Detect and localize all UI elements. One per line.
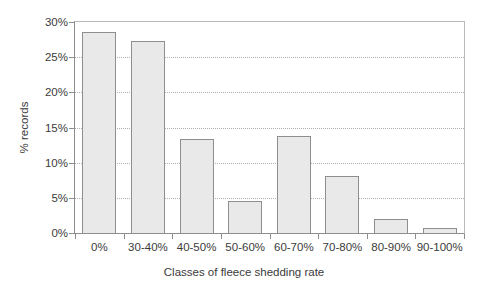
y-axis-tick-label: 15% — [8, 122, 68, 134]
x-axis-tick-mark — [124, 234, 125, 239]
y-axis-tick-mark — [69, 22, 74, 23]
y-axis-tick-label: 5% — [8, 192, 68, 204]
bar — [325, 176, 359, 234]
x-axis-tick-label: 60-70% — [274, 241, 314, 253]
y-axis-tick-label: 25% — [8, 51, 68, 63]
bar — [228, 201, 262, 234]
y-axis-tick-label: 30% — [8, 16, 68, 28]
x-axis-title: Classes of fleece shedding rate — [0, 266, 488, 278]
x-axis-tick-label: 50-60% — [225, 241, 265, 253]
bars-layer — [75, 22, 464, 234]
x-axis-tick-label: 90-100% — [417, 241, 463, 253]
bar — [423, 228, 457, 234]
x-axis-tick-mark — [367, 234, 368, 239]
y-axis-tick-mark — [69, 233, 74, 234]
y-axis-tick-mark — [69, 198, 74, 199]
bar — [131, 41, 165, 234]
y-axis-tick-mark — [69, 57, 74, 58]
x-axis-tick-mark — [318, 234, 319, 239]
bar — [277, 136, 311, 234]
x-axis-tick-mark — [464, 234, 465, 239]
x-axis-tick-label: 30-40% — [128, 241, 168, 253]
x-axis-tick-mark — [172, 234, 173, 239]
x-axis-tick-mark — [221, 234, 222, 239]
bar — [82, 32, 116, 234]
y-axis-tick-label: 10% — [8, 157, 68, 169]
y-axis-tick-label: 20% — [8, 86, 68, 98]
x-axis-tick-mark — [75, 234, 76, 239]
x-axis-tick-label: 0% — [91, 241, 108, 253]
x-axis-tick-label: 80-90% — [371, 241, 411, 253]
x-axis-tick-label: 70-80% — [323, 241, 363, 253]
bar — [374, 219, 408, 234]
bar — [180, 139, 214, 234]
x-axis-tick-mark — [270, 234, 271, 239]
y-axis-tick-labels: 0%5%10%15%20%25%30% — [4, 21, 68, 234]
x-axis-tick-label: 40-50% — [177, 241, 217, 253]
y-axis-tick-mark — [69, 92, 74, 93]
x-axis-tick-mark — [415, 234, 416, 239]
y-axis-tick-mark — [69, 128, 74, 129]
y-axis-tick-mark — [69, 163, 74, 164]
y-axis-tick-label: 0% — [8, 227, 68, 239]
bar-chart: % records 0%5%10%15%20%25%30% 0%30-40%40… — [0, 0, 488, 288]
